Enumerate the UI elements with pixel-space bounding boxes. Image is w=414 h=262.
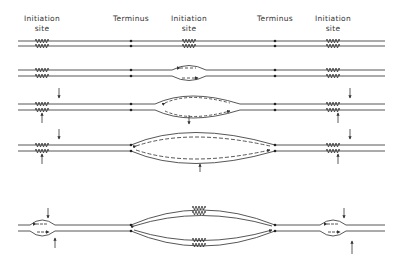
replication-diagram — [0, 0, 414, 262]
stage-3 — [18, 96, 385, 118]
stage-5 — [18, 210, 385, 246]
stage-4 — [18, 133, 385, 164]
site-pointer-arrows — [42, 88, 352, 254]
stage-2 — [18, 66, 385, 81]
